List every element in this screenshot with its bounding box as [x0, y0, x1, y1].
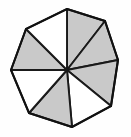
- octagon-figure: [0, 0, 131, 137]
- figure-container: [0, 0, 131, 137]
